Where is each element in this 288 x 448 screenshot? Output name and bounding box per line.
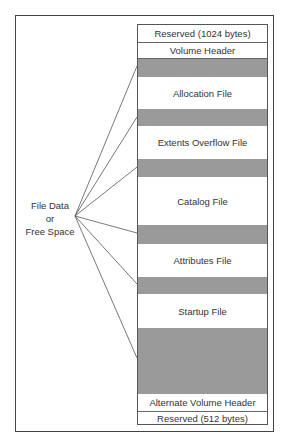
connector-line — [75, 66, 137, 216]
band-attributes-file: Attributes File — [138, 244, 267, 277]
band-catalog-file: Catalog File — [138, 177, 267, 225]
label-line-3: Free Space — [22, 225, 78, 238]
connector-line — [75, 216, 137, 284]
band-volume-header: Volume Header — [138, 42, 267, 58]
band-alternate-volume-header: Alternate Volume Header — [138, 394, 267, 411]
label-line-2: or — [22, 212, 78, 225]
band-free-space — [138, 277, 267, 294]
volume-layout-stack: Reserved (1024 bytes) Volume Header Allo… — [137, 24, 268, 425]
connector-line — [75, 216, 137, 358]
band-reserved-512: Reserved (512 bytes) — [138, 411, 267, 424]
band-allocation-file: Allocation File — [138, 77, 267, 109]
band-free-space — [138, 109, 267, 126]
band-reserved-1024: Reserved (1024 bytes) — [138, 25, 267, 42]
band-free-space — [138, 225, 267, 244]
band-free-space — [138, 328, 267, 394]
connector-line — [75, 167, 137, 216]
free-space-label: File Data or Free Space — [22, 199, 78, 238]
band-startup-file: Startup File — [138, 294, 267, 328]
connector-line — [75, 117, 137, 216]
band-free-space — [138, 159, 267, 177]
label-line-1: File Data — [22, 199, 78, 212]
band-free-space — [138, 58, 267, 77]
band-extents-overflow-file: Extents Overflow File — [138, 126, 267, 159]
connector-line — [75, 216, 137, 233]
